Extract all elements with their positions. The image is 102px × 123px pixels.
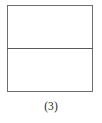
rectangle-region-lower bbox=[8, 49, 91, 90]
figure-caption: (3) bbox=[0, 99, 102, 113]
divided-rectangle-figure bbox=[7, 5, 93, 92]
rectangle-region-upper bbox=[8, 6, 91, 48]
figure-root: (3) bbox=[0, 0, 102, 123]
